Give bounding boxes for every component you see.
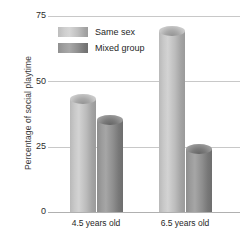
legend-swatch-icon-same-sex (58, 27, 88, 37)
bar-chart: Percentage of social playtime 75 50 25 0 (0, 0, 250, 233)
bar-same-sex-6-5 (159, 26, 185, 212)
legend-label-mixed-group: Mixed group (95, 43, 145, 53)
x-tick-label-4-5-years-old: 4.5 years old (56, 218, 136, 228)
bar-body (186, 149, 212, 212)
gridline-50 (48, 81, 240, 82)
bar-body (70, 99, 96, 212)
axis-line-zero (48, 212, 240, 213)
x-tick-label-6-5-years-old: 6.5 years old (145, 218, 225, 228)
legend-item-same-sex: Same sex (58, 25, 145, 38)
legend: Same sex Mixed group (58, 25, 145, 57)
bar-same-sex-4-5 (70, 94, 96, 212)
legend-swatch-icon-mixed-group (58, 43, 88, 53)
y-tick-label-75: 75 (24, 10, 46, 20)
y-axis-title: Percentage of social playtime (23, 23, 33, 203)
y-tick-label-25: 25 (24, 141, 46, 151)
bar-body (97, 120, 123, 212)
gridline-75 (48, 16, 240, 17)
bar-cap (186, 144, 212, 154)
legend-item-mixed-group: Mixed group (58, 41, 145, 54)
bar-body (159, 31, 185, 212)
bar-mixed-group-6-5 (186, 144, 212, 212)
y-tick-label-0: 0 (24, 206, 46, 216)
legend-label-same-sex: Same sex (95, 27, 135, 37)
y-tick-label-50: 50 (24, 76, 46, 86)
bar-mixed-group-4-5 (97, 115, 123, 212)
